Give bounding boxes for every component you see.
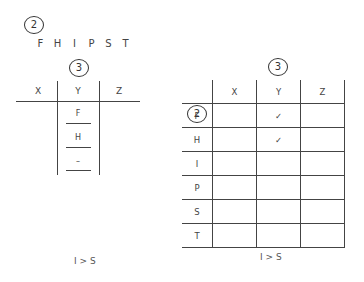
grid-cell [213, 128, 257, 152]
letter: H [49, 38, 66, 49]
column-marker-circle: 3 [69, 59, 89, 77]
check-mark-icon: ✓ [257, 104, 301, 128]
grid-cell [257, 152, 301, 176]
entry-underline [66, 123, 91, 124]
relation-left: I > S [74, 256, 96, 266]
tchart-header-line [16, 101, 140, 102]
tchart-entry: F [66, 109, 90, 118]
grid-row: P [182, 176, 345, 200]
grid-cell [301, 224, 345, 248]
relation-right: I > S [260, 252, 282, 262]
grid-row: T [182, 224, 345, 248]
grid-corner [182, 80, 213, 104]
grid-cell [257, 224, 301, 248]
letter: I [66, 38, 83, 49]
letter: P [83, 38, 100, 49]
grid-cell [301, 152, 345, 176]
letter: S [100, 38, 117, 49]
group-marker-circle: 2 [24, 16, 44, 34]
grid-header-x: X [213, 80, 257, 104]
grid-cell [213, 200, 257, 224]
row-label: I [182, 152, 213, 176]
tchart-divider-left [57, 81, 58, 175]
grid-cell [301, 104, 345, 128]
tchart-divider-right [99, 81, 100, 175]
grid-row: S [182, 200, 345, 224]
column-marker-circle: 3 [268, 58, 288, 76]
tchart-header-y: Y [66, 86, 90, 96]
grid-cell [257, 176, 301, 200]
grid-header-row: X Y Z [182, 80, 345, 104]
tchart-entry: H [66, 133, 90, 142]
grid-row: H ✓ [182, 128, 345, 152]
tchart-header-x: X [26, 86, 50, 96]
entry-underline [66, 170, 91, 171]
grid-cell [213, 104, 257, 128]
entry-underline [66, 147, 91, 148]
grid-row: I [182, 152, 345, 176]
row-label: H [182, 128, 213, 152]
tchart-entry: – [66, 157, 90, 166]
letter-list: FHIPST [32, 38, 134, 49]
letter: T [117, 38, 134, 49]
grid-cell [213, 152, 257, 176]
grid-cell [301, 200, 345, 224]
grid-cell [213, 176, 257, 200]
grid-cell [213, 224, 257, 248]
grid-header-y: Y [257, 80, 301, 104]
row-label: F [182, 104, 213, 128]
grid-table: X Y Z F ✓ H ✓ I P S T [182, 80, 345, 248]
grid-header-z: Z [301, 80, 345, 104]
row-label: T [182, 224, 213, 248]
tchart-header-z: Z [107, 86, 131, 96]
row-label: S [182, 200, 213, 224]
grid-row: F ✓ [182, 104, 345, 128]
grid-cell [301, 128, 345, 152]
letter: F [32, 38, 49, 49]
row-label: P [182, 176, 213, 200]
check-mark-icon: ✓ [257, 128, 301, 152]
grid-cell [257, 200, 301, 224]
grid-cell [301, 176, 345, 200]
